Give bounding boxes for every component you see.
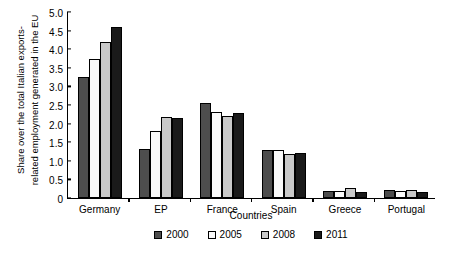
y-axis-tick: 0.5: [49, 173, 67, 185]
legend-label: 2000: [166, 230, 188, 240]
bar: [172, 118, 183, 198]
y-axis-tick: 2.0: [49, 118, 67, 130]
x-axis-tick-mark: [128, 198, 129, 202]
bar: [78, 77, 89, 198]
legend-swatch: [154, 231, 162, 239]
y-axis-tick: 1.0: [49, 155, 67, 167]
y-axis-tick-label: 1.5: [49, 138, 67, 150]
bars-layer: [67, 12, 435, 198]
y-axis-tick: 0: [57, 192, 67, 204]
bar-group: [78, 12, 122, 198]
y-axis-tick: 5.0: [49, 6, 67, 18]
bar: [384, 190, 395, 198]
y-axis-tick-label: 5.0: [49, 8, 67, 20]
bar-group: [200, 12, 244, 198]
bar: [345, 188, 356, 198]
x-axis-tick-mark: [374, 198, 375, 202]
bar: [200, 103, 211, 198]
legend-swatch: [208, 231, 216, 239]
bar: [161, 117, 172, 198]
bar: [222, 116, 233, 198]
chart-legend: 2000200520082011: [67, 230, 435, 240]
legend-item: 2000: [154, 230, 188, 240]
plot-area: 00.51.01.52.02.53.03.54.04.55.0 GermanyE…: [67, 12, 435, 198]
y-axis-tick-label: 2.5: [49, 101, 67, 113]
x-axis-title: Countries: [67, 210, 435, 221]
y-axis-title-line-2: related employment generated in the EU: [28, 0, 42, 200]
bar: [100, 42, 111, 198]
bar: [262, 150, 273, 198]
legend-swatch: [314, 231, 322, 239]
bar: [295, 153, 306, 198]
y-axis-title: Share over the total Italian exports- re…: [0, 0, 40, 200]
y-axis-tick: 2.5: [49, 99, 67, 111]
legend-label: 2011: [326, 230, 348, 240]
y-axis-tick-label: 0.5: [49, 175, 67, 187]
bar-group: [139, 12, 183, 198]
bar: [395, 191, 406, 198]
bar: [211, 112, 222, 198]
bar: [273, 150, 284, 198]
bar: [89, 59, 100, 199]
y-axis-tick-label: 4.0: [49, 45, 67, 57]
y-axis-tick: 4.5: [49, 25, 67, 37]
chart-figure: Share over the total Italian exports- re…: [0, 0, 457, 255]
bar-group: [323, 12, 367, 198]
legend-item: 2011: [314, 230, 348, 240]
legend-label: 2005: [220, 230, 242, 240]
y-axis-title-line-1: Share over the total Italian exports-: [14, 0, 28, 200]
y-axis-tick: 4.0: [49, 43, 67, 55]
bar: [323, 191, 334, 198]
bar: [233, 113, 244, 198]
x-axis-tick-mark: [251, 198, 252, 202]
y-axis-tick: 3.5: [49, 62, 67, 74]
bar: [417, 192, 428, 198]
bar: [356, 192, 367, 198]
y-axis-tick-label: 0: [57, 194, 67, 206]
legend-item: 2008: [261, 230, 295, 240]
bar: [150, 131, 161, 198]
bar: [284, 154, 295, 198]
legend-label: 2008: [273, 230, 295, 240]
y-axis-tick: 3.0: [49, 80, 67, 92]
bar-group: [262, 12, 306, 198]
legend-swatch: [261, 231, 269, 239]
y-axis-tick-label: 3.0: [49, 82, 67, 94]
bar-group: [384, 12, 428, 198]
bar: [139, 149, 150, 198]
x-axis-tick-mark: [312, 198, 313, 202]
y-axis-tick-label: 3.5: [49, 64, 67, 76]
x-axis-tick-mark: [190, 198, 191, 202]
bar: [111, 27, 122, 198]
y-axis-tick-label: 4.5: [49, 27, 67, 39]
y-axis-tick: 1.5: [49, 136, 67, 148]
y-axis-tick-label: 1.0: [49, 157, 67, 169]
bar: [406, 190, 417, 198]
bar: [334, 191, 345, 198]
y-axis-tick-label: 2.0: [49, 120, 67, 132]
legend-item: 2005: [208, 230, 242, 240]
